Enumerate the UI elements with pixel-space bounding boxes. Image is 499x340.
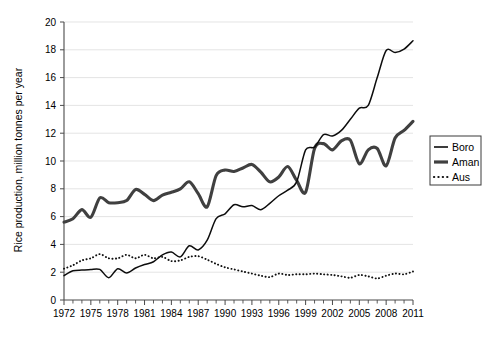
y-tick-label: 4	[50, 239, 56, 250]
x-tick-label: 1978	[107, 308, 130, 319]
rice-production-line-chart: 02468101214161820 1972197519781981198419…	[0, 0, 499, 340]
y-tick-label: 10	[45, 156, 57, 167]
data-series	[64, 41, 413, 279]
x-tick-label: 2005	[348, 308, 371, 319]
series-line-aus	[64, 254, 413, 278]
y-tick-label: 0	[50, 295, 56, 306]
y-tick-label: 2	[50, 267, 56, 278]
x-tick-label: 1984	[160, 308, 183, 319]
x-tick-label: 2011	[402, 308, 424, 319]
y-tick-label: 18	[45, 44, 57, 55]
y-tick-label: 6	[50, 211, 56, 222]
x-tick-label: 1981	[133, 308, 156, 319]
chart-legend: BoroAmanAus	[430, 136, 481, 185]
x-tick-label: 1987	[187, 308, 210, 319]
y-tick-label: 20	[45, 17, 57, 28]
y-tick-label: 14	[45, 100, 57, 111]
y-tick-label: 12	[45, 128, 57, 139]
x-tick-label: 2002	[321, 308, 344, 319]
y-axis	[60, 22, 64, 300]
x-tick-label: 1999	[294, 308, 317, 319]
x-tick-label: 2008	[375, 308, 398, 319]
legend-label-boro: Boro	[452, 141, 474, 153]
x-tick-label: 1990	[214, 308, 237, 319]
series-line-aman	[64, 121, 413, 222]
x-tick-label: 1993	[241, 308, 264, 319]
x-tick-label: 1972	[53, 308, 76, 319]
x-tick-label: 1975	[80, 308, 103, 319]
y-tick-label: 16	[45, 72, 57, 83]
gridlines	[64, 22, 413, 272]
legend-label-aman: Aman	[452, 156, 480, 168]
x-axis	[64, 300, 413, 305]
legend-label-aus: Aus	[452, 171, 470, 183]
y-axis-title: Rice production, million tonnes per year	[12, 67, 24, 252]
y-tick-label: 8	[50, 183, 56, 194]
chart-canvas: 02468101214161820 1972197519781981198419…	[0, 0, 499, 340]
x-axis-tick-labels: 1972197519781981198419871990199319961999…	[53, 308, 424, 319]
series-line-boro	[64, 41, 413, 278]
y-axis-tick-labels: 02468101214161820	[45, 17, 57, 306]
x-tick-label: 1996	[268, 308, 291, 319]
